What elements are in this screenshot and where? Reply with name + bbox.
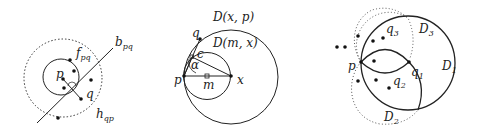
label-q1: q1 [411,65,424,81]
label-q2: q2 [393,74,406,90]
label-alpha: α [191,58,199,72]
point-q [79,97,83,101]
point [89,78,93,82]
lens-q1-top [361,50,409,63]
label-m: m [203,78,214,92]
lens-q1-bottom [361,62,409,73]
point-fpq [68,58,72,62]
label-p: p [56,67,64,81]
dotted-circle-D3 [356,12,413,62]
label-p: p [174,73,182,87]
label-q: q [192,26,200,40]
point [374,78,378,82]
label-D3: D3 [418,22,434,38]
point [72,69,76,73]
panel-2: D(x, p) D(m, x) q c α p m x [174,10,278,124]
point [56,116,60,120]
point-q1 [407,60,411,64]
point [372,59,376,63]
label-Dxp: D(x, p) [212,10,254,24]
panel-1: fpq bpq hqp p q [24,35,133,123]
label-h: hqp [96,107,114,123]
figure: fpq bpq hqp p q D(x, p) D(m, x) q c α p … [0,0,478,137]
panel-3: q3 D3 p q1 D1 q2 D2 [335,8,457,126]
point [335,45,339,49]
point [387,86,391,90]
point [381,36,385,40]
label-x: x [237,73,244,87]
point-x [229,74,233,78]
label-p: p [348,59,356,73]
point [371,39,375,43]
label-b: bpq [115,35,133,51]
label-Dmx: D(m, x) [212,36,258,50]
label-D2: D2 [383,110,399,126]
point [356,34,360,38]
point [343,45,347,49]
point [356,79,360,83]
point [62,86,66,90]
point-p [359,60,363,64]
label-q3: q3 [386,22,399,38]
point-p [182,74,186,78]
label-q: q [86,87,94,101]
